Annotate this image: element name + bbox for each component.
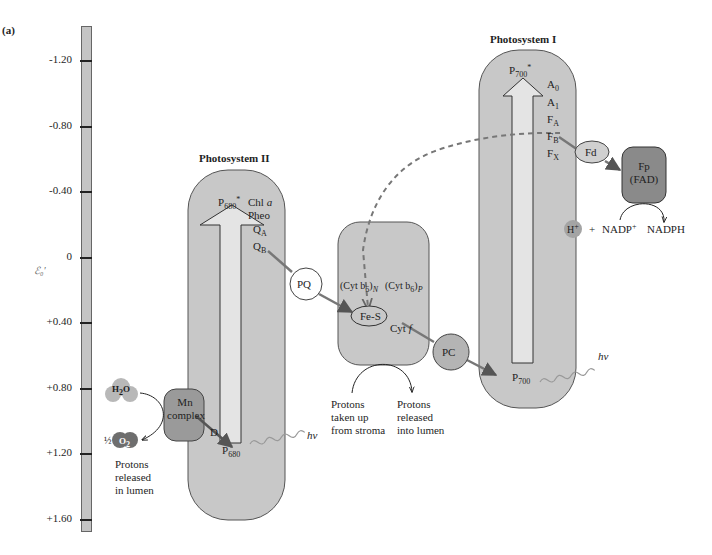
cyt-f-label: Cyt f bbox=[390, 322, 412, 335]
fes-label: Fe-S bbox=[360, 310, 381, 323]
a0-label: A0 bbox=[547, 78, 559, 91]
protons-taken-up-label: Protons taken up from stroma bbox=[331, 398, 385, 437]
water-oxidation-arrow bbox=[140, 393, 163, 440]
a1-label: A1 bbox=[547, 96, 559, 109]
cytochrome-b6f-complex bbox=[338, 222, 429, 365]
p700-excited-label: P700* bbox=[509, 64, 531, 77]
fb-label: FB bbox=[547, 130, 558, 143]
fa-label: FA bbox=[547, 113, 559, 126]
p700-label: P700 bbox=[512, 371, 530, 384]
diagram-shapes bbox=[0, 0, 712, 555]
nadp-reduction-arrow bbox=[620, 204, 664, 222]
fp-fad-label: Fp (FAD) bbox=[622, 160, 666, 186]
chl-a-label: Chl a bbox=[248, 196, 272, 209]
proton-translocation-arrow bbox=[352, 364, 412, 393]
protons-released-into-lumen-label: Protons released into lumen bbox=[397, 398, 444, 437]
d-label: D bbox=[210, 426, 218, 439]
qa-label: QA bbox=[253, 223, 267, 236]
protons-released-lumen-label: Protons released in lumen bbox=[115, 458, 154, 497]
pheo-label: Pheo bbox=[248, 209, 270, 222]
p680-label: P680 bbox=[222, 444, 240, 457]
hv-psii-label: hν bbox=[307, 429, 317, 442]
pq-label: PQ bbox=[297, 278, 311, 291]
hv-psi-label: hν bbox=[598, 350, 608, 363]
mn-complex-label: Mn complex bbox=[171, 396, 199, 422]
photosystem2-title: Photosystem II bbox=[199, 152, 270, 165]
cyt-b6-n-label: (Cyt b6)N bbox=[340, 279, 378, 292]
h2o-label: H2O bbox=[112, 383, 130, 396]
pc-label: PC bbox=[442, 346, 455, 359]
fd-label: Fd bbox=[585, 146, 597, 159]
half-label: ½ bbox=[104, 434, 112, 447]
p680-excited-label: P680* bbox=[218, 196, 240, 209]
o2-label: O2 bbox=[119, 435, 130, 448]
cyt-b6-p-label: (Cyt b6)P bbox=[385, 279, 423, 292]
nadp-label: NADP+ bbox=[602, 223, 636, 236]
h-plus-label: H+ bbox=[567, 223, 579, 236]
plus-sign: + bbox=[589, 223, 595, 236]
nadph-label: NADPH bbox=[647, 223, 685, 236]
photosystem1-title: Photosystem I bbox=[490, 33, 556, 46]
fx-label: FX bbox=[547, 147, 559, 160]
qb-label: QB bbox=[253, 240, 266, 253]
